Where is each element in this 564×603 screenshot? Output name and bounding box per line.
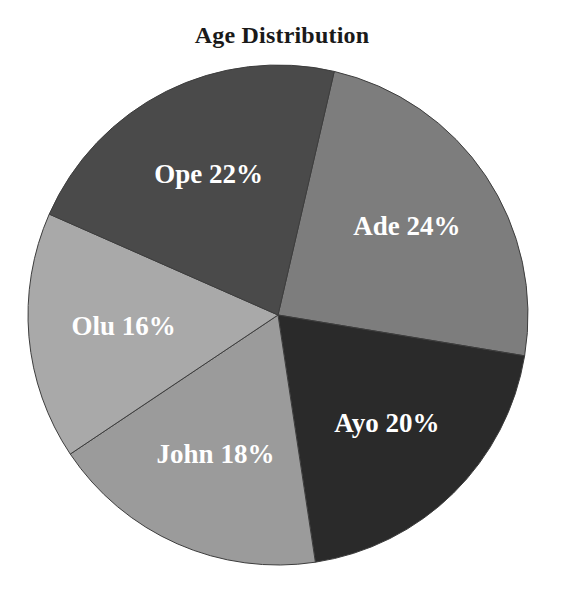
pie-slice-ayo[interactable] <box>278 315 525 562</box>
pie-slice-label-ade: Ade 24% <box>353 211 460 241</box>
pie-chart-canvas: Ade 24%Ayo 20%John 18%Olu 16%Ope 22% <box>0 0 564 603</box>
pie-chart-figure: Age Distribution Ade 24%Ayo 20%John 18%O… <box>0 0 564 603</box>
pie-slice-label-john: John 18% <box>157 439 275 469</box>
pie-slice-label-ayo: Ayo 20% <box>334 408 439 438</box>
pie-slice-label-ope: Ope 22% <box>154 159 263 189</box>
pie-slice-label-olu: Olu 16% <box>71 311 175 341</box>
